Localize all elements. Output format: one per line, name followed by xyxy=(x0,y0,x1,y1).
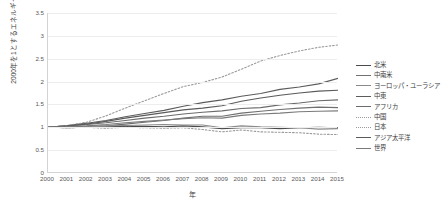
legend-label: アフリカ xyxy=(374,104,398,110)
gridline xyxy=(48,127,337,128)
gridline xyxy=(48,104,337,105)
chart-legend: 北米中南米ヨーロッパ・ユーラシア中東アフリカ中国日本アジア太平洋世界 xyxy=(356,60,441,154)
x-axis-tick-label: 2000 xyxy=(40,176,54,182)
y-axis-title-wrap: 2000年を1とするエネルギー消費量 xyxy=(0,10,14,178)
x-axis-tick-label: 2015 xyxy=(330,176,344,182)
y-axis-tick-label: 0.5 xyxy=(22,147,44,153)
legend-item[interactable]: 世界 xyxy=(356,143,441,153)
legend-swatch xyxy=(356,65,371,66)
series-line xyxy=(48,78,338,127)
x-axis-tick-label: 2009 xyxy=(214,176,228,182)
series-line xyxy=(48,45,338,127)
y-axis-tick-label: 2.5 xyxy=(22,56,44,62)
x-axis-tick-label: 2007 xyxy=(175,176,189,182)
legend-item[interactable]: 日本 xyxy=(356,122,441,132)
x-axis-tick-label: 2014 xyxy=(311,176,325,182)
chart-figure: 2000年を1とするエネルギー消費量 00.511.522.533.5 2000… xyxy=(0,0,441,213)
legend-item[interactable]: 中東 xyxy=(356,91,441,101)
y-axis-tick-label: 3 xyxy=(22,33,44,39)
y-axis-tick-label: 2 xyxy=(22,79,44,85)
legend-label: 日本 xyxy=(374,124,386,130)
plot-area xyxy=(47,13,337,173)
x-axis-tick-label: 2003 xyxy=(98,176,112,182)
legend-item[interactable]: ヨーロッパ・ユーラシア xyxy=(356,81,441,91)
legend-swatch xyxy=(356,96,371,97)
gridline xyxy=(48,13,337,14)
legend-swatch xyxy=(356,106,371,107)
y-axis-tick-label: 1.5 xyxy=(22,101,44,107)
legend-swatch xyxy=(356,75,371,76)
legend-swatch xyxy=(356,85,371,86)
legend-swatch xyxy=(356,117,371,118)
x-axis-tick-label: 2002 xyxy=(79,176,93,182)
legend-item[interactable]: アジア太平洋 xyxy=(356,133,441,143)
legend-label: 中国 xyxy=(374,114,386,120)
x-axis-tick-label: 2004 xyxy=(117,176,131,182)
legend-swatch xyxy=(356,137,371,138)
x-axis-tick-label: 2001 xyxy=(59,176,73,182)
gridline xyxy=(48,82,337,83)
legend-item[interactable]: アフリカ xyxy=(356,102,441,112)
legend-item[interactable]: 北米 xyxy=(356,60,441,70)
legend-label: 中東 xyxy=(374,93,386,99)
legend-swatch xyxy=(356,127,371,128)
legend-label: 世界 xyxy=(374,145,386,151)
x-axis-ticks: 2000200120022003200420052006200720082009… xyxy=(47,176,337,188)
x-axis-tick-label: 2010 xyxy=(233,176,247,182)
x-axis-tick-label: 2012 xyxy=(272,176,286,182)
gridline xyxy=(48,59,337,60)
legend-label: アジア太平洋 xyxy=(374,135,410,141)
y-axis-tick-label: 1 xyxy=(22,124,44,130)
x-axis-tick-label: 2005 xyxy=(137,176,151,182)
legend-label: 中南米 xyxy=(374,72,392,78)
y-axis-ticks: 00.511.522.533.5 xyxy=(19,10,44,176)
x-axis-tick-label: 2011 xyxy=(253,176,266,182)
x-axis-tick-label: 2008 xyxy=(195,176,209,182)
x-axis-tick-label: 2013 xyxy=(291,176,305,182)
y-axis-tick-label: 3.5 xyxy=(22,10,44,16)
chart-lines xyxy=(48,13,338,173)
legend-label: ヨーロッパ・ユーラシア xyxy=(374,83,440,89)
x-axis-tick-label: 2006 xyxy=(156,176,170,182)
gridline xyxy=(48,150,337,151)
legend-swatch xyxy=(356,148,371,149)
legend-item[interactable]: 中南米 xyxy=(356,70,441,80)
gridline xyxy=(48,36,337,37)
legend-label: 北米 xyxy=(374,62,386,68)
x-axis-title: 年 xyxy=(47,189,337,199)
legend-item[interactable]: 中国 xyxy=(356,112,441,122)
